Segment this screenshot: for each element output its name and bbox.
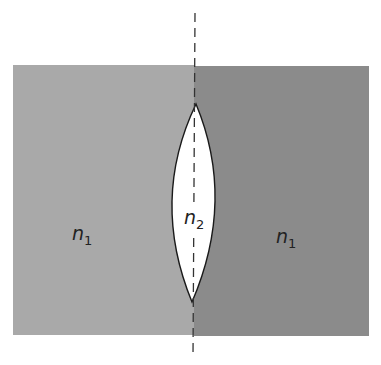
right-medium-label: n1 [276, 225, 296, 251]
left-medium [13, 65, 195, 335]
right-medium [194, 66, 369, 336]
lens-medium-label: n2 [184, 206, 204, 232]
lens-diagram [0, 0, 381, 365]
left-medium-label: n1 [72, 222, 92, 248]
